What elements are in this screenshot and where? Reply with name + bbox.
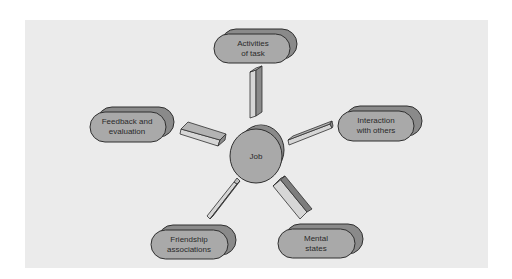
- connector-friendship: [207, 178, 240, 219]
- node-feedback-shape: [90, 107, 174, 142]
- connector-feedback: [180, 122, 226, 146]
- diagram-graphics: [0, 0, 512, 279]
- connector-activities: [250, 66, 262, 118]
- diagram-canvas: Activities of task Feedback and evaluati…: [0, 0, 512, 279]
- connector-interaction: [288, 121, 333, 145]
- center-node-job-shape: [230, 125, 284, 183]
- node-mental-shape: [278, 224, 363, 258]
- connector-mental: [273, 176, 312, 219]
- node-friendship-shape: [151, 225, 236, 259]
- node-activities-shape: [214, 29, 297, 63]
- node-interaction-shape: [338, 106, 422, 141]
